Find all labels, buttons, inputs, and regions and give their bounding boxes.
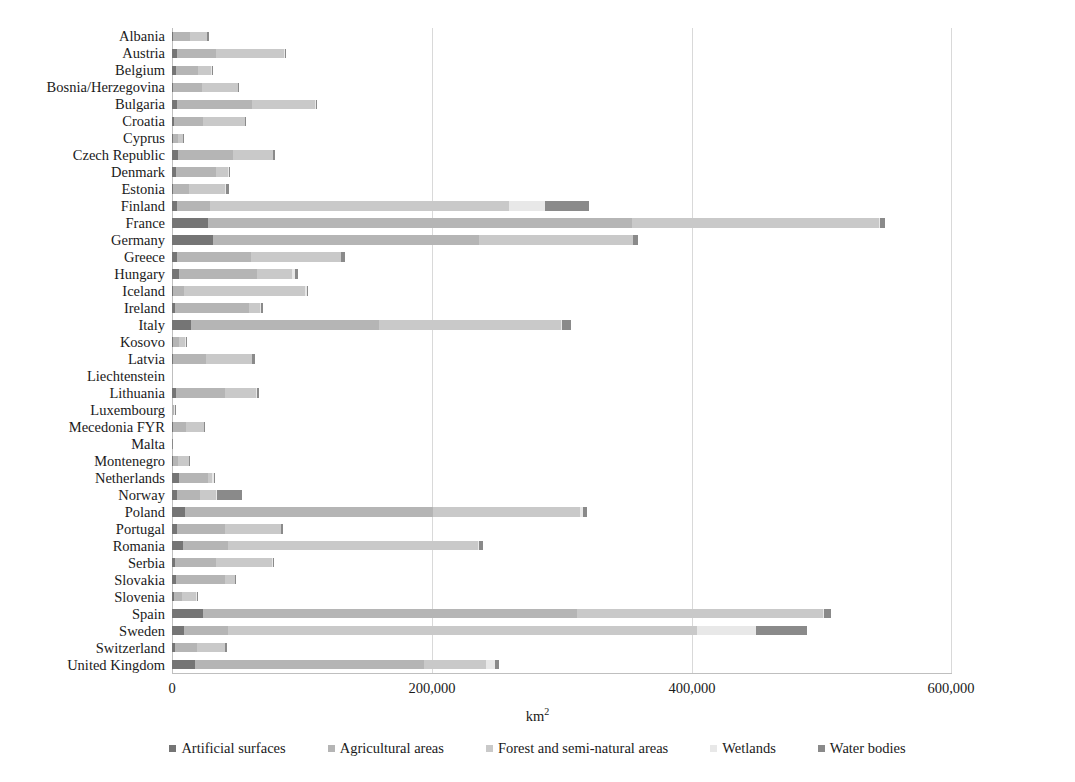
bar-segment [229,167,230,177]
bar-segment [178,150,234,160]
bar-segment [206,354,251,364]
stacked-bar [172,201,589,211]
bar-segment [175,303,248,313]
bar-row: Belgium [172,62,952,79]
category-label: Norway [118,488,165,503]
category-label: Latvia [128,352,165,367]
stacked-bar [172,32,209,42]
x-axis-title-superscript: 2 [544,706,549,717]
bar-segment [577,609,823,619]
stacked-bar [172,354,255,364]
bar-segment [257,269,292,279]
bar-segment [183,134,184,144]
stacked-bar [172,575,236,585]
legend-item[interactable]: Wetlands [710,740,776,757]
bar-row: Germany [172,232,952,249]
bar-row: Denmark [172,164,952,181]
bar-segment [186,337,187,347]
legend-item[interactable]: Forest and semi-natural areas [486,740,668,757]
bar-segment [545,201,589,211]
plot-area: AlbaniaAustriaBelgiumBosnia/HerzegovinaB… [172,28,952,673]
stacked-bar [172,49,285,59]
bar-row: Montenegro [172,452,952,469]
legend-label: Wetlands [722,740,776,757]
bar-segment [341,252,345,262]
category-label: Croatia [122,114,165,129]
bar-segment [213,235,479,245]
bar-segment [204,422,205,432]
bar-segment [424,660,486,670]
bar-segment [200,490,216,500]
legend-swatch-icon [169,745,176,752]
category-label: Germany [111,233,165,248]
x-tick-label-0: 0 [168,680,175,697]
bar-segment [178,456,189,466]
bar-segment [185,507,433,517]
bar-row: Netherlands [172,469,952,486]
category-label: Finland [121,199,165,214]
bar-segment [183,541,229,551]
legend-item[interactable]: Agricultural areas [328,740,444,757]
bar-segment [186,422,204,432]
stacked-bar [172,83,239,93]
bar-segment [238,83,239,93]
category-label: Austria [122,46,165,61]
category-label: United Kingdom [67,657,165,672]
bar-segment [184,626,228,636]
stacked-bar [172,490,242,500]
bar-segment [824,609,832,619]
bar-row: Mecedonia FYR [172,418,952,435]
bar-row: Estonia [172,181,952,198]
bar-row: Lithuania [172,384,952,401]
land-cover-stacked-bar-chart: AlbaniaAustriaBelgiumBosnia/HerzegovinaB… [0,0,1075,782]
bar-segment [281,524,282,534]
bar-row: Serbia [172,554,952,571]
bar-row: Sweden [172,622,952,639]
bar-segment [251,252,340,262]
bar-segment [173,422,186,432]
chart-legend: Artificial surfacesAgricultural areasFor… [0,740,1075,757]
bar-segment [273,150,274,160]
bar-segment [172,507,185,517]
bar-segment [261,303,263,313]
stacked-bar [172,235,638,245]
category-label: Mecedonia FYR [69,420,165,435]
stacked-bar [172,303,263,313]
bar-segment [197,592,198,602]
stacked-bar [172,269,298,279]
stacked-bar [172,609,831,619]
bar-segment [245,117,246,127]
bar-segment [177,201,210,211]
bar-segment [198,66,211,76]
legend-label: Forest and semi-natural areas [498,740,668,757]
stacked-bar [172,405,175,415]
bar-row: Norway [172,486,952,503]
bar-segment [632,218,879,228]
stacked-bar [172,252,345,262]
category-label: Serbia [128,555,165,570]
stacked-bar [172,473,215,483]
bar-row: Ireland [172,300,952,317]
bar-segment [756,626,807,636]
bar-row: Bulgaria [172,96,952,113]
bar-row: Czech Republic [172,147,952,164]
bar-segment [252,100,316,110]
bar-segment [197,643,225,653]
bar-segment [225,643,227,653]
bar-segment [173,32,190,42]
bar-segment [479,541,483,551]
bar-row: Kosovo [172,334,952,351]
legend-item[interactable]: Water bodies [818,740,906,757]
bar-segment [177,100,252,110]
category-label: Netherlands [95,471,165,486]
bar-segment [177,252,251,262]
bar-row: Portugal [172,520,952,537]
category-label: Italy [138,318,165,333]
bar-segment [697,626,756,636]
bar-row: Albania [172,28,952,45]
category-label: Estonia [122,182,166,197]
bar-row: Cyprus [172,130,952,147]
legend-item[interactable]: Artificial surfaces [169,740,285,757]
bar-segment [225,575,234,585]
bar-segment [257,388,260,398]
